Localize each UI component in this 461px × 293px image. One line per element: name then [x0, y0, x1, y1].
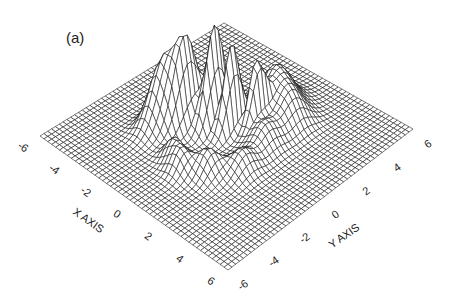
y-tick-label: 6	[422, 137, 434, 150]
x-tick-label: 4	[174, 252, 186, 265]
y-tick-label: -6	[235, 277, 250, 292]
surface-plot: -6-4-20246 -6-4-20246 X AXIS Y AXIS	[0, 0, 461, 293]
x-tick-label: 0	[111, 207, 123, 220]
x-tick-label: 2	[143, 229, 155, 242]
x-tick-label: 6	[205, 274, 217, 287]
x-tick-label: -2	[79, 184, 94, 199]
x-axis-title: X AXIS	[71, 205, 106, 235]
y-tick-label: -2	[297, 230, 312, 245]
y-tick-label: -4	[266, 254, 281, 269]
y-tick-label: 2	[360, 184, 372, 197]
x-tick-label: -4	[47, 161, 62, 176]
x-tick-label: -6	[16, 139, 31, 154]
y-axis-title: Y AXIS	[326, 221, 361, 251]
y-tick-label: 4	[391, 161, 403, 174]
y-tick-label: 0	[329, 208, 341, 221]
